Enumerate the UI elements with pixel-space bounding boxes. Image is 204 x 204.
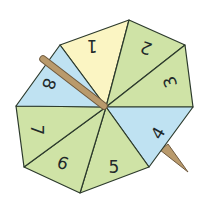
segment-label-1: 1 — [87, 36, 98, 56]
stick-tip — [160, 144, 188, 172]
segment-label-7: 7 — [27, 125, 47, 136]
octagonal-spinner: 1 2 3 4 5 6 7 8 — [0, 0, 204, 204]
segment-label-5: 5 — [109, 157, 120, 177]
